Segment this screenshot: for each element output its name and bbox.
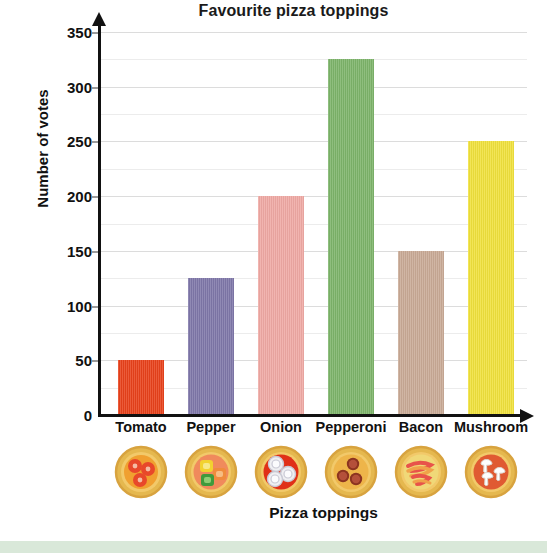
pizza-onion-icon: [253, 444, 309, 500]
y-axis-tick-labels: 350 300 250 200 150 100 50 0: [20, 32, 92, 415]
pizza-bacon-icon: [393, 444, 449, 500]
bar-pepper[interactable]: [188, 278, 234, 415]
plot-area: [100, 32, 527, 415]
bar-bacon[interactable]: [398, 251, 444, 415]
bar-mushroom[interactable]: [468, 141, 514, 415]
bar-pepperoni[interactable]: [328, 59, 374, 415]
pizza-pepperoni-icon: [323, 444, 379, 500]
y-tick-label-50: 50: [75, 352, 92, 369]
y-tick-label-100: 100: [67, 297, 92, 314]
x-tick-label-mushroom: Mushroom: [442, 419, 540, 435]
bar-tomato[interactable]: [118, 360, 164, 415]
x-axis-line: [98, 414, 522, 417]
y-tick-label-200: 200: [67, 188, 92, 205]
pizza-pepper-icon: [183, 444, 239, 500]
pizza-icon-row: [100, 444, 527, 502]
bottom-band: [0, 541, 547, 553]
y-tick-label-0: 0: [84, 407, 92, 424]
chart-title: Favourite pizza toppings: [0, 2, 547, 20]
y-tick-label-150: 150: [67, 242, 92, 259]
y-axis-arrow-icon: [92, 12, 106, 26]
x-axis-tick-labels: Tomato Pepper Onion Pepperoni Bacon Mush…: [100, 419, 527, 443]
bar-onion[interactable]: [258, 196, 304, 415]
bar-series: [100, 32, 527, 415]
chart-figure: Favourite pizza toppings Number of votes…: [0, 0, 547, 553]
x-axis-title: Pizza toppings: [100, 504, 547, 522]
pizza-mushroom-icon: [463, 444, 519, 500]
y-tick-label-300: 300: [67, 78, 92, 95]
y-axis-line: [98, 24, 101, 417]
pizza-tomato-icon: [113, 444, 169, 500]
y-tick-label-250: 250: [67, 133, 92, 150]
y-tick-label-350: 350: [67, 24, 92, 41]
